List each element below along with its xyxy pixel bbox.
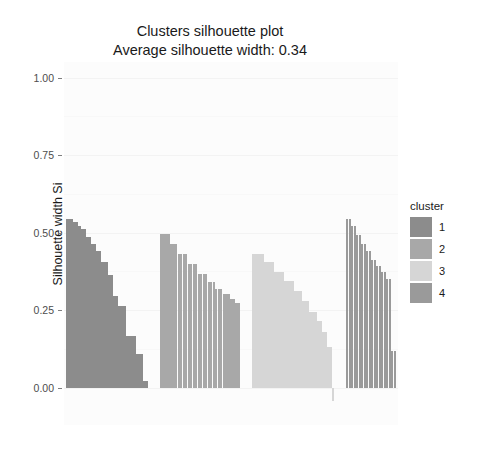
legend-title: cluster xyxy=(410,200,476,212)
gridline-minor xyxy=(64,194,398,195)
legend-swatch-icon xyxy=(410,283,432,303)
plot-panel xyxy=(64,62,398,425)
bar-cluster-3 xyxy=(329,347,331,388)
gridline-major xyxy=(64,78,398,79)
bar-cluster-3 xyxy=(332,388,334,401)
y-tick-mark xyxy=(58,155,62,156)
y-tick-mark xyxy=(58,310,62,311)
y-tick-mark xyxy=(58,388,62,389)
legend-item-2[interactable]: 2 xyxy=(410,239,476,259)
legend-item-label: 3 xyxy=(439,265,445,277)
bar-cluster-2 xyxy=(237,303,239,387)
legend: cluster 1234 xyxy=(410,200,476,305)
y-tick-label: 0.75 xyxy=(18,149,54,161)
legend-swatch-icon xyxy=(410,239,432,259)
legend-item-3[interactable]: 3 xyxy=(410,261,476,281)
legend-item-label: 4 xyxy=(439,287,445,299)
legend-items: 1234 xyxy=(410,217,476,303)
silhouette-plot-figure: Clusters silhouette plot Average silhoue… xyxy=(0,0,478,468)
y-tick-label: 0.00 xyxy=(18,382,54,394)
chart-subtitle: Average silhouette width: 0.34 xyxy=(0,41,420,60)
legend-swatch-icon xyxy=(410,217,432,237)
legend-item-4[interactable]: 4 xyxy=(410,283,476,303)
bar-cluster-1 xyxy=(146,381,148,388)
y-tick-label: 0.50 xyxy=(18,227,54,239)
page-title: Clusters silhouette plot xyxy=(0,22,420,41)
y-tick-label: 0.25 xyxy=(18,304,54,316)
gridline-major xyxy=(64,155,398,156)
chart-title-block: Clusters silhouette plot Average silhoue… xyxy=(0,22,420,60)
legend-swatch-icon xyxy=(410,261,432,281)
gridline-minor xyxy=(64,116,398,117)
gridline-major xyxy=(64,388,398,389)
y-tick-label: 1.00 xyxy=(18,72,54,84)
y-tick-mark xyxy=(58,233,62,234)
legend-item-label: 2 xyxy=(439,243,445,255)
legend-item-label: 1 xyxy=(439,221,445,233)
legend-item-1[interactable]: 1 xyxy=(410,217,476,237)
bar-cluster-4 xyxy=(394,351,396,388)
y-tick-mark xyxy=(58,78,62,79)
